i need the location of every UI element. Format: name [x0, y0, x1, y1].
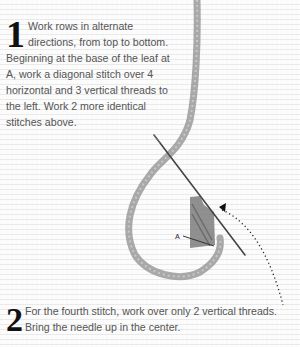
step-2-number: 2: [6, 306, 23, 333]
step-2: 2 For the fourth stitch, work over only …: [6, 303, 296, 335]
point-a-label: A: [175, 232, 180, 241]
step-1-text: Work rows in alternate directions, from …: [6, 20, 170, 128]
dotted-arrow: [222, 210, 283, 305]
step-1: 1 Work rows in alternate directions, fro…: [6, 18, 176, 130]
step-1-number: 1: [6, 19, 25, 49]
step-2-text: For the fourth stitch, work over only 2 …: [25, 305, 277, 333]
embroidery-instruction-page: A 1 Work rows in alternate directions, f…: [0, 0, 300, 347]
